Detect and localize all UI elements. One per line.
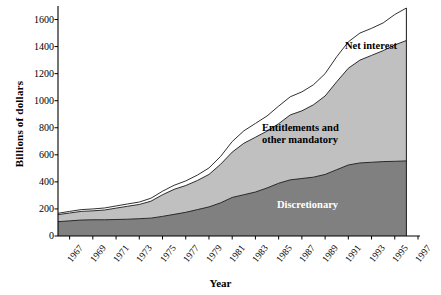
- stacked-area-chart: Billions of dollars 02004006008001000120…: [0, 0, 441, 295]
- series-label-entitlements: Entitlements andother mandatory: [262, 122, 339, 146]
- x-axis-title: Year: [0, 277, 441, 289]
- series-label-discretionary: Discretionary: [277, 199, 338, 211]
- series-label-net-interest: Net interest: [345, 40, 397, 52]
- series-label-entitlements-line2: other mandatory: [262, 134, 338, 145]
- series-label-entitlements-line1: Entitlements and: [262, 122, 339, 133]
